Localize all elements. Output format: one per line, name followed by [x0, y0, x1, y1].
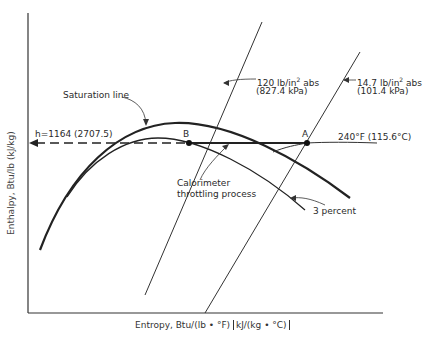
pressure-14-7-si-label: (101.4 kPa)	[357, 86, 408, 96]
point-a-marker	[304, 140, 310, 146]
saturation-leader	[122, 97, 146, 124]
arrowhead-icon	[223, 80, 229, 86]
enthalpy-value-label: h=1164 (2707.5)	[35, 129, 113, 139]
y-axis-label: Enthalpy, Btu/lb (kJ/kg)	[6, 131, 16, 235]
temperature-label: 240°F (115.6°C)	[338, 132, 411, 142]
arrowhead-icon	[222, 144, 229, 150]
x-axis-label-main: Entropy, Btu/(lb • °F)	[135, 320, 230, 330]
x-axis-label-si: kJ/(kg • °C)	[233, 320, 290, 330]
arrowhead-icon	[343, 77, 349, 83]
x-axis-label: Entropy, Btu/(lb • °F) kJ/(kg • °C)	[135, 320, 290, 330]
pressure-line-120psi	[145, 22, 262, 295]
calorimeter-label-line1: Calorimeter	[177, 178, 230, 188]
arrowhead-icon	[143, 119, 149, 126]
calorimeter-label-line2: throttling process	[177, 189, 256, 199]
point-a-label: A	[302, 129, 308, 139]
isotherm-240F	[307, 142, 377, 143]
pressure-120-si-label: (827.4 kPa)	[256, 86, 307, 96]
moisture-leader	[292, 198, 325, 205]
arrow-left-icon	[29, 139, 38, 147]
point-b-label: B	[183, 129, 189, 139]
calorimeter-leader	[200, 145, 228, 180]
point-b-marker	[186, 140, 192, 146]
mollier-diagram	[0, 0, 424, 343]
moisture-percent-label: 3 percent	[313, 206, 356, 216]
saturation-line-label: Saturation line	[63, 90, 129, 100]
